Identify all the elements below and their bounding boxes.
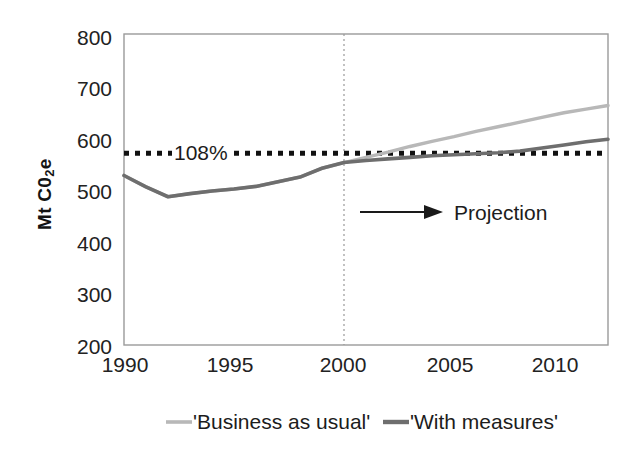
emissions-line-chart: 800 700 600 500 400 300 200 1990 1995 20… bbox=[0, 0, 636, 456]
x-tick-label-1990: 1990 bbox=[90, 353, 160, 377]
y-tick-label-500: 500 bbox=[52, 180, 112, 204]
projection-arrow-icon bbox=[360, 205, 443, 219]
y-axis-title-subscript: 2 bbox=[42, 169, 57, 177]
x-tick-label-2000: 2000 bbox=[308, 353, 378, 377]
y-axis-title: Mt C02e bbox=[34, 158, 56, 230]
y-tick-label-700: 700 bbox=[52, 77, 112, 101]
chart-canvas bbox=[0, 0, 636, 456]
legend-label-with-measures: 'With measures' bbox=[410, 410, 558, 434]
x-tick-label-1995: 1995 bbox=[195, 353, 265, 377]
y-axis-title-main: Mt C0 bbox=[34, 177, 55, 230]
y-tick-label-600: 600 bbox=[52, 129, 112, 153]
reference-line-label: 108% bbox=[172, 143, 230, 163]
legend-label-business-as-usual: 'Business as usual' bbox=[193, 410, 370, 434]
plot-area-border bbox=[124, 34, 608, 345]
y-tick-label-300: 300 bbox=[52, 283, 112, 307]
y-tick-label-400: 400 bbox=[52, 232, 112, 256]
projection-label: Projection bbox=[454, 201, 547, 225]
y-axis-title-end: e bbox=[34, 158, 55, 169]
y-tick-label-800: 800 bbox=[52, 26, 112, 50]
x-tick-label-2005: 2005 bbox=[415, 353, 485, 377]
x-tick-label-2010: 2010 bbox=[520, 353, 590, 377]
